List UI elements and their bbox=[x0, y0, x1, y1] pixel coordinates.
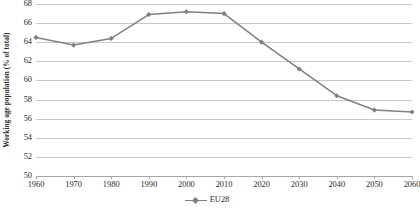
x-tick-label-1990: 1990 bbox=[140, 181, 157, 189]
y-tick-label-60: 60 bbox=[24, 76, 32, 84]
x-tick-label-1960: 1960 bbox=[28, 181, 45, 189]
series-line-eu28 bbox=[36, 12, 412, 112]
y-tick-label-66: 66 bbox=[24, 19, 32, 27]
x-tick-label-2060: 2060 bbox=[404, 181, 420, 189]
x-tick-mark-1980 bbox=[111, 176, 112, 179]
data-point-2050 bbox=[372, 107, 377, 112]
x-tick-label-2030: 2030 bbox=[291, 181, 308, 189]
legend-label-eu28: EU28 bbox=[210, 196, 230, 204]
y-tick-label-52: 52 bbox=[24, 153, 32, 161]
x-tick-mark-2060 bbox=[412, 176, 413, 179]
x-tick-mark-1960 bbox=[36, 176, 37, 179]
data-point-1970 bbox=[71, 42, 76, 47]
data-point-1960 bbox=[33, 35, 38, 40]
y-tick-label-68: 68 bbox=[24, 0, 32, 8]
y-tick-label-56: 56 bbox=[24, 114, 32, 122]
plot-area bbox=[36, 4, 412, 176]
x-tick-label-2000: 2000 bbox=[178, 181, 195, 189]
x-tick-label-2020: 2020 bbox=[253, 181, 270, 189]
x-tick-mark-2020 bbox=[262, 176, 263, 179]
x-tick-mark-2040 bbox=[337, 176, 338, 179]
x-tick-label-1970: 1970 bbox=[65, 181, 82, 189]
x-tick-mark-2050 bbox=[374, 176, 375, 179]
legend-marker-eu28 bbox=[185, 196, 207, 205]
chart-legend: EU28 bbox=[0, 196, 414, 205]
y-axis-title-text: Working age population (% of total) bbox=[3, 32, 11, 147]
y-axis-tick-labels: 50525456586062646668 bbox=[14, 4, 34, 176]
data-point-2060 bbox=[409, 109, 414, 114]
x-tick-mark-2030 bbox=[299, 176, 300, 179]
series-eu28 bbox=[36, 4, 412, 176]
y-tick-label-50: 50 bbox=[24, 172, 32, 180]
x-tick-label-1980: 1980 bbox=[103, 181, 120, 189]
data-point-2000 bbox=[184, 9, 189, 14]
x-tick-label-2040: 2040 bbox=[328, 181, 345, 189]
x-tick-mark-1970 bbox=[74, 176, 75, 179]
y-tick-label-64: 64 bbox=[24, 38, 32, 46]
y-tick-label-54: 54 bbox=[24, 134, 32, 142]
x-tick-mark-1990 bbox=[149, 176, 150, 179]
x-axis-tick-labels: 1960197019801990200020102020203020402050… bbox=[36, 181, 412, 193]
x-tick-label-2010: 2010 bbox=[216, 181, 233, 189]
x-tick-label-2050: 2050 bbox=[366, 181, 383, 189]
y-axis-title: Working age population (% of total) bbox=[0, 0, 14, 180]
y-tick-label-58: 58 bbox=[24, 95, 32, 103]
x-tick-mark-2010 bbox=[224, 176, 225, 179]
x-tick-mark-2000 bbox=[186, 176, 187, 179]
y-tick-label-62: 62 bbox=[24, 57, 32, 65]
legend-diamond-icon bbox=[192, 197, 199, 204]
